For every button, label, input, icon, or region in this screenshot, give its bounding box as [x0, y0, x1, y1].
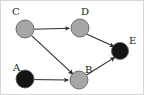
node-label-a: A	[12, 62, 21, 73]
node-c[interactable]	[16, 20, 34, 38]
edge-d-to-e	[87, 34, 114, 46]
node-e[interactable]	[112, 43, 129, 60]
node-layer	[16, 19, 129, 89]
label-layer: C D A B E	[12, 6, 136, 75]
node-d[interactable]	[71, 19, 89, 37]
node-label-e: E	[129, 35, 136, 46]
graph-figure: C D A B E	[0, 0, 144, 95]
node-label-d: D	[81, 6, 89, 17]
edge-c-to-b	[32, 36, 73, 74]
graph-canvas: C D A B E	[1, 1, 144, 95]
node-label-b: B	[85, 64, 92, 75]
node-label-c: C	[12, 6, 20, 17]
edge-layer	[32, 28, 115, 80]
edge-c-to-d	[34, 28, 69, 29]
